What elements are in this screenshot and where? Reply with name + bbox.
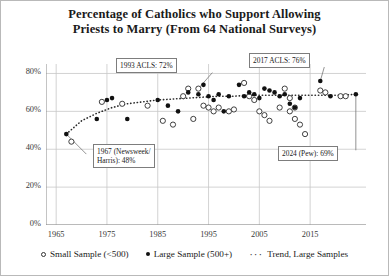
- data-point-small-sample: [287, 109, 292, 114]
- x-tick-label: 2015: [290, 230, 330, 239]
- dotted-line-icon: ···: [249, 250, 263, 258]
- data-point-small-sample: [262, 113, 267, 118]
- data-point-small-sample: [282, 86, 287, 91]
- data-point-small-sample: [257, 109, 262, 114]
- legend-item-small-sample: Small Sample (<500): [41, 249, 129, 259]
- data-point-large-sample: [298, 96, 303, 101]
- chart-title: Percentage of Catholics who Support Allo…: [1, 7, 388, 37]
- data-point-small-sample: [181, 94, 186, 99]
- data-point-small-sample: [211, 109, 216, 114]
- annotation-2017-acls: 2017 ACLS: 76%: [249, 53, 310, 68]
- data-point-large-sample: [216, 92, 221, 97]
- x-tick-label: 1965: [36, 230, 76, 239]
- data-point-small-sample: [252, 97, 257, 102]
- legend-item-large-sample: Large Sample (500+): [146, 249, 233, 259]
- data-point-large-sample: [267, 88, 272, 93]
- data-point-large-sample: [94, 117, 99, 122]
- x-tick-label: 1995: [189, 230, 229, 239]
- data-point-large-sample: [252, 92, 257, 97]
- data-point-large-sample: [318, 79, 323, 84]
- x-tick-label: 1985: [138, 230, 178, 239]
- data-point-small-sample: [287, 95, 292, 100]
- data-point-small-sample: [201, 103, 206, 108]
- y-tick-label: 20%: [9, 181, 41, 190]
- legend-label-small-sample: Small Sample (<500): [50, 249, 129, 259]
- y-tick-label: 0%: [9, 219, 41, 228]
- data-point-large-sample: [242, 94, 247, 99]
- data-point-small-sample: [160, 118, 165, 123]
- data-point-small-sample: [241, 80, 246, 85]
- data-point-small-sample: [231, 107, 236, 112]
- data-point-small-sample: [69, 139, 74, 144]
- data-point-large-sample: [247, 90, 252, 95]
- y-tick-label: 80%: [9, 67, 41, 76]
- x-tick-label: 2005: [239, 230, 279, 239]
- annotation-leader-line: [66, 134, 86, 154]
- data-point-small-sample: [277, 105, 282, 110]
- data-point-small-sample: [170, 122, 175, 127]
- data-point-large-sample: [227, 94, 232, 99]
- chart-title-line-2: Priests to Marry (From 64 National Surve…: [1, 22, 388, 37]
- data-point-large-sample: [211, 98, 216, 103]
- data-point-large-sample: [221, 109, 226, 114]
- data-point-small-sample: [120, 101, 125, 106]
- data-point-small-sample: [206, 105, 211, 110]
- data-point-small-sample: [338, 94, 343, 99]
- trend-line: [66, 94, 356, 134]
- data-point-small-sample: [292, 116, 297, 121]
- data-point-large-sample: [110, 96, 115, 101]
- data-point-large-sample: [166, 103, 171, 108]
- legend-label-large-sample: Large Sample (500+): [154, 249, 233, 259]
- y-tick-label: 40%: [9, 143, 41, 152]
- data-point-small-sample: [302, 131, 307, 136]
- data-point-large-sample: [196, 92, 201, 97]
- filled-circle-icon: [146, 252, 150, 256]
- data-point-large-sample: [186, 90, 191, 95]
- data-point-large-sample: [176, 109, 181, 114]
- chart-legend: Small Sample (<500) Large Sample (500+) …: [1, 249, 388, 259]
- annotation-2024-pew: 2024 (Pew): 69%: [278, 146, 338, 161]
- data-point-small-sample: [343, 94, 348, 99]
- data-point-large-sample: [272, 90, 277, 95]
- data-point-large-sample: [328, 94, 333, 99]
- annotation-leader-line: [198, 73, 212, 89]
- data-point-large-sample: [155, 98, 160, 103]
- x-tick-label: 1975: [87, 230, 127, 239]
- data-point-large-sample: [105, 98, 110, 103]
- data-point-small-sample: [99, 99, 104, 104]
- data-point-large-sample: [201, 83, 206, 88]
- data-point-large-sample: [277, 94, 282, 99]
- data-point-large-sample: [206, 94, 211, 99]
- data-point-small-sample: [191, 116, 196, 121]
- chart-container: Percentage of Catholics who Support Allo…: [0, 0, 389, 276]
- data-point-large-sample: [293, 105, 298, 110]
- data-point-small-sample: [318, 88, 323, 93]
- data-point-small-sample: [297, 122, 302, 127]
- data-point-small-sample: [196, 86, 201, 91]
- data-point-large-sample: [262, 86, 267, 91]
- data-point-small-sample: [323, 90, 328, 95]
- annotation-1993-acls: 1993 ACLS: 72%: [116, 58, 177, 73]
- data-point-large-sample: [257, 96, 262, 101]
- data-point-small-sample: [145, 103, 150, 108]
- chart-title-line-1: Percentage of Catholics who Support Allo…: [1, 7, 388, 22]
- legend-item-trend: ··· Trend, Large Samples: [249, 249, 348, 259]
- legend-label-trend: Trend, Large Samples: [267, 249, 348, 259]
- data-point-large-sample: [237, 83, 242, 88]
- data-point-large-sample: [354, 92, 359, 97]
- data-point-small-sample: [216, 105, 221, 110]
- annotation-1967-newsweek-harris: 1967 (Newsweek/ Harris): 48%: [93, 144, 155, 168]
- y-tick-label: 60%: [9, 105, 41, 114]
- data-point-large-sample: [125, 117, 130, 122]
- data-point-large-sample: [282, 92, 287, 97]
- open-circle-icon: [41, 252, 46, 257]
- data-point-large-sample: [288, 101, 293, 106]
- data-point-small-sample: [267, 118, 272, 123]
- data-point-large-sample: [64, 132, 69, 137]
- data-point-small-sample: [226, 109, 231, 114]
